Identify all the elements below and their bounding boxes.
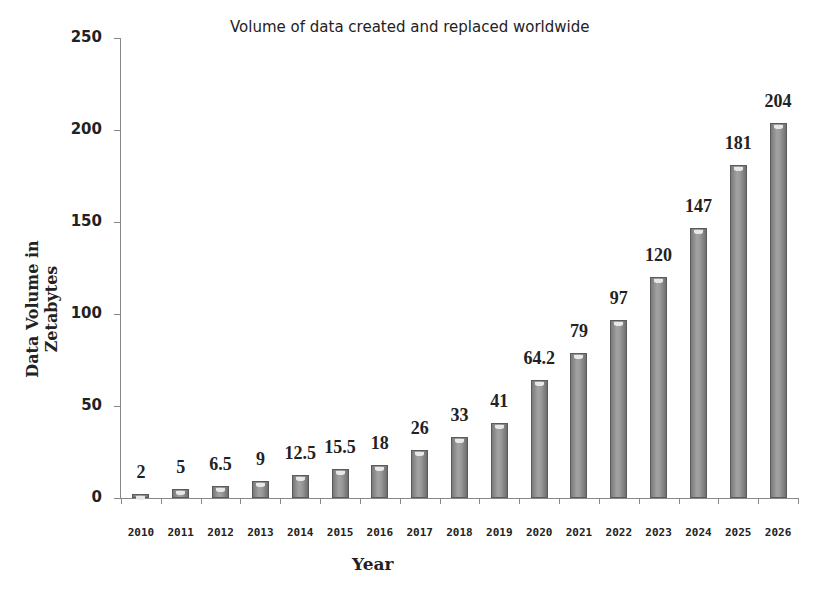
y-tick-label: 150 (62, 212, 102, 230)
x-tick-label: 2026 (756, 526, 800, 539)
x-tick-label: 2018 (438, 526, 482, 539)
bar-value-label: 181 (713, 133, 763, 154)
bar-value-label: 97 (594, 288, 644, 309)
bar-2025 (730, 165, 747, 498)
x-tick-mark (519, 498, 520, 504)
y-tick-mark (114, 314, 120, 315)
x-tick-label: 2012 (199, 526, 243, 539)
bar-chart: Volume of data created and replaced worl… (0, 0, 829, 605)
bar-2024 (690, 228, 707, 498)
x-tick-label: 2022 (597, 526, 641, 539)
bar-2018 (451, 437, 468, 498)
y-tick-mark (114, 222, 120, 223)
x-tick-label: 2011 (159, 526, 203, 539)
y-tick-mark (114, 498, 120, 499)
x-tick-label: 2017 (398, 526, 442, 539)
bar-2022 (610, 320, 627, 498)
bar-2019 (491, 423, 508, 498)
bar-value-label: 204 (753, 91, 803, 112)
bar-value-label: 64.2 (514, 348, 564, 369)
bar-2010 (132, 494, 149, 498)
chart-title: Volume of data created and replaced worl… (230, 18, 589, 36)
y-tick-label: 0 (62, 488, 102, 506)
bar-2012 (212, 486, 229, 498)
x-tick-label: 2016 (358, 526, 402, 539)
x-tick-mark (440, 498, 441, 504)
y-tick-mark (114, 38, 120, 39)
bar-2020 (531, 380, 548, 498)
x-tick-label: 2025 (716, 526, 760, 539)
x-tick-mark (201, 498, 202, 504)
x-tick-mark (639, 498, 640, 504)
bar-2013 (252, 481, 269, 498)
x-tick-mark (280, 498, 281, 504)
bar-value-label: 41 (474, 391, 524, 412)
bar-2021 (570, 353, 587, 498)
x-axis-line (114, 498, 798, 499)
y-tick-mark (114, 406, 120, 407)
bar-2011 (172, 489, 189, 498)
x-tick-mark (758, 498, 759, 504)
x-tick-mark (479, 498, 480, 504)
bar-2017 (411, 450, 428, 498)
y-axis-line (120, 38, 121, 499)
bar-value-label: 79 (554, 321, 604, 342)
bar-value-label: 147 (673, 196, 723, 217)
y-tick-label: 200 (62, 120, 102, 138)
x-tick-label: 2024 (676, 526, 720, 539)
x-tick-mark (798, 498, 799, 504)
y-tick-label: 50 (62, 396, 102, 414)
x-tick-mark (718, 498, 719, 504)
y-tick-mark (114, 130, 120, 131)
x-tick-mark (320, 498, 321, 504)
x-tick-mark (161, 498, 162, 504)
x-tick-mark (400, 498, 401, 504)
y-tick-label: 100 (62, 304, 102, 322)
x-tick-mark (360, 498, 361, 504)
bar-2015 (332, 469, 349, 498)
bar-2014 (292, 475, 309, 498)
bar-2016 (371, 465, 388, 498)
x-tick-label: 2019 (477, 526, 521, 539)
x-axis-label: Year (352, 554, 393, 574)
bar-value-label: 120 (634, 245, 684, 266)
bar-2023 (650, 277, 667, 498)
x-tick-mark (599, 498, 600, 504)
y-axis-label: Data Volume in Zetabytes (23, 209, 61, 409)
x-tick-label: 2010 (119, 526, 163, 539)
x-tick-mark (679, 498, 680, 504)
x-tick-label: 2021 (557, 526, 601, 539)
x-tick-label: 2023 (637, 526, 681, 539)
x-tick-mark (240, 498, 241, 504)
x-tick-label: 2020 (517, 526, 561, 539)
x-tick-label: 2014 (278, 526, 322, 539)
x-tick-label: 2013 (238, 526, 282, 539)
x-tick-label: 2015 (318, 526, 362, 539)
x-tick-mark (121, 498, 122, 504)
x-tick-mark (559, 498, 560, 504)
y-tick-label: 250 (62, 28, 102, 46)
bar-2026 (770, 123, 787, 498)
